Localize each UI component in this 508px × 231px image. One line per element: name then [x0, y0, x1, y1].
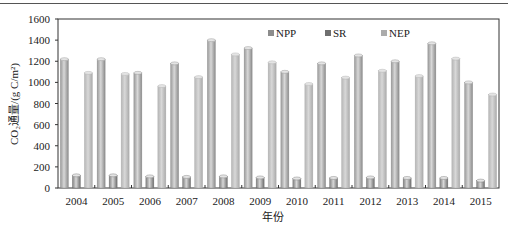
legend-label-nep: NEP — [389, 27, 410, 39]
bar-nep-2006 — [158, 86, 166, 188]
y-tick-label: 1400 — [28, 34, 51, 46]
bar-nep-2008 — [231, 54, 239, 188]
bar-sr-2004 — [72, 175, 80, 188]
legend-label-npp: NPP — [276, 27, 296, 39]
bar-nep-2005 — [121, 74, 129, 188]
legend-swatch-sr — [325, 30, 331, 36]
bar-nep-2010 — [305, 84, 313, 188]
bar-chart: 0200400600800100012001400160020042005200… — [0, 0, 508, 231]
bar-nep-2011 — [342, 78, 350, 188]
x-tick-label: 2012 — [359, 195, 381, 207]
y-tick-label: 800 — [34, 98, 51, 110]
bar-npp-2014 — [428, 43, 436, 188]
x-tick-label: 2008 — [212, 195, 235, 207]
bar-npp-2011 — [318, 63, 326, 188]
bar-npp-2015 — [465, 82, 473, 188]
x-tick-label: 2009 — [249, 195, 272, 207]
bar-nep-2009 — [268, 62, 276, 188]
bar-npp-2012 — [354, 55, 362, 188]
y-tick-label: 400 — [34, 140, 51, 152]
legend-swatch-nep — [381, 30, 387, 36]
x-tick-label: 2011 — [323, 195, 345, 207]
bar-nep-2015 — [489, 95, 497, 188]
x-tick-label: 2010 — [286, 195, 309, 207]
x-tick-label: 2006 — [139, 195, 162, 207]
bar-npp-2008 — [207, 40, 215, 188]
x-tick-label: 2013 — [396, 195, 419, 207]
x-axis-label: 年份 — [262, 208, 284, 224]
legend-label-sr: SR — [333, 27, 347, 39]
y-tick-label: 1600 — [28, 13, 51, 25]
x-tick-label: 2005 — [102, 195, 125, 207]
bar-sr-2008 — [219, 176, 227, 188]
bar-npp-2007 — [171, 63, 179, 188]
bar-nep-2007 — [195, 77, 203, 188]
bar-nep-2004 — [84, 73, 92, 188]
x-tick-label: 2015 — [470, 195, 493, 207]
legend-swatch-npp — [268, 30, 274, 36]
y-tick-label: 0 — [45, 182, 51, 194]
x-tick-label: 2014 — [433, 195, 456, 207]
y-tick-label: 600 — [34, 119, 51, 131]
bar-nep-2012 — [378, 71, 386, 188]
y-tick-label: 1000 — [28, 76, 51, 88]
bar-npp-2013 — [391, 61, 399, 188]
y-tick-label: 1200 — [28, 55, 51, 67]
bar-npp-2006 — [134, 73, 142, 188]
bar-npp-2009 — [244, 48, 252, 188]
y-axis-label: CO₂通量/(g C/m²) — [5, 39, 21, 169]
bar-nep-2014 — [452, 59, 460, 188]
bar-npp-2004 — [60, 59, 68, 188]
bar-npp-2010 — [281, 72, 289, 188]
y-tick-label: 200 — [34, 161, 51, 173]
bar-sr-2005 — [109, 175, 117, 188]
x-tick-label: 2004 — [65, 195, 88, 207]
bar-sr-2006 — [146, 176, 154, 188]
bar-nep-2013 — [415, 76, 423, 188]
bar-npp-2005 — [97, 59, 105, 188]
x-tick-label: 2007 — [176, 195, 199, 207]
